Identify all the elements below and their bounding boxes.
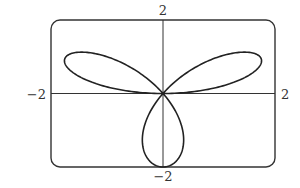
x-max-label: 2	[281, 87, 289, 102]
x-min-label: −2	[27, 87, 46, 102]
y-min-label: −2	[153, 169, 172, 184]
y-max-label: 2	[159, 3, 167, 18]
polar-plot: 2 −2 −2 2	[0, 0, 300, 188]
